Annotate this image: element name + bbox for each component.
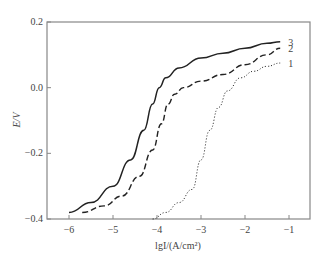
y-tick-label: 0.2 [31,16,44,27]
data-series [69,42,280,219]
series-labels: 321 [288,37,293,69]
series-line-1 [153,63,281,219]
y-tick-label: 0.0 [31,82,44,93]
plot-frame [47,22,310,219]
x-tick-label: −3 [196,224,207,235]
x-axis-label: lgI/(A/cm²) [155,240,201,252]
x-tick-label: −2 [240,224,251,235]
y-tick-label: −0.2 [25,147,43,158]
x-tick-label: −4 [152,224,163,235]
series-label-1: 1 [288,58,293,69]
series-line-3 [69,42,280,213]
series-label-2: 2 [288,43,293,54]
x-tick-label: −6 [64,224,75,235]
series-line-2 [82,48,280,212]
x-tick-label: −1 [284,224,295,235]
x-tick-label: −5 [108,224,119,235]
y-axis-label: E/V [11,111,22,129]
y-tick-label: −0.4 [25,213,43,224]
polarization-chart: −6−5−4−3−2−10.20.0−0.2−0.4 321 lgI/(A/cm… [0,0,326,262]
